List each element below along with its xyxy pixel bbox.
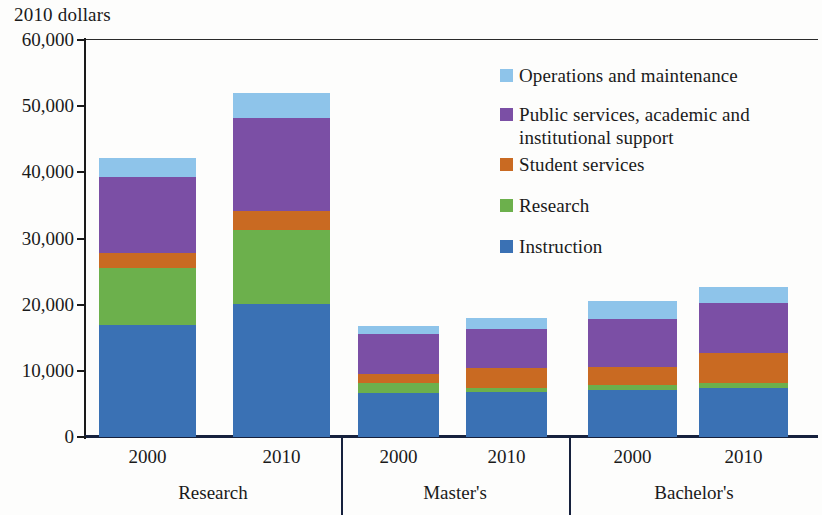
legend-swatch-icon <box>500 199 513 212</box>
x-axis-year-label: 2010 <box>232 446 332 468</box>
y-axis-tick-label: 20,000 <box>0 294 74 316</box>
bar-stack <box>233 93 330 437</box>
x-axis-year-label: 2000 <box>583 446 683 468</box>
y-axis-tick-label: 10,000 <box>0 360 74 382</box>
legend-item-label: Student services <box>519 153 645 176</box>
y-axis-tick <box>77 39 86 41</box>
y-axis-tick <box>77 436 86 438</box>
y-axis-tick-label: 40,000 <box>0 161 74 183</box>
bar-segment <box>99 177 196 253</box>
y-axis-tick <box>77 370 86 372</box>
bar-segment <box>99 325 196 437</box>
bar-segment <box>233 93 330 118</box>
bar-segment <box>233 304 330 437</box>
y-axis-tick-label: 50,000 <box>0 95 74 117</box>
legend-item-instruction[interactable]: Instruction <box>500 235 818 258</box>
bar-segment <box>99 253 196 268</box>
legend-swatch-icon <box>500 158 513 171</box>
bar-segment <box>699 303 788 353</box>
bar-segment <box>588 367 677 385</box>
bar-segment <box>588 301 677 319</box>
x-axis-year-label: 2010 <box>694 446 794 468</box>
bar-segment <box>466 392 547 437</box>
bar-segment <box>699 287 788 303</box>
bar-stack <box>588 301 677 437</box>
bar-stack <box>699 287 788 437</box>
y-axis-tick-label: 60,000 <box>0 29 74 51</box>
bar-segment <box>99 158 196 177</box>
y-axis-tick <box>77 105 86 107</box>
x-axis-group-label: Bachelor's <box>570 482 818 504</box>
bar-segment <box>466 318 547 329</box>
x-axis-group-label: Master's <box>342 482 568 504</box>
bar-segment <box>233 230 330 304</box>
bar-segment <box>466 329 547 368</box>
y-axis-unit-label: 2010 dollars <box>14 4 111 26</box>
bar-segment <box>588 319 677 367</box>
legend-swatch-icon <box>500 108 513 121</box>
legend-swatch-icon <box>500 69 513 82</box>
x-axis-year-label: 2000 <box>349 446 449 468</box>
y-axis-tick <box>77 304 86 306</box>
legend-item-research[interactable]: Research <box>500 194 818 217</box>
y-axis-tick <box>77 238 86 240</box>
legend-item-operations[interactable]: Operations and maintenance <box>500 64 818 87</box>
legend-item-public_support[interactable]: Public services, academic and institutio… <box>500 103 818 149</box>
bar-segment <box>358 393 439 437</box>
bar-segment <box>99 268 196 325</box>
legend-swatch-icon <box>500 240 513 253</box>
bar-segment <box>358 326 439 335</box>
bar-stack <box>358 326 439 437</box>
legend-item-student_services[interactable]: Student services <box>500 153 818 176</box>
legend-item-label: Operations and maintenance <box>519 64 738 87</box>
bar-segment <box>358 334 439 374</box>
x-axis-year-label: 2010 <box>457 446 557 468</box>
x-axis-year-label: 2000 <box>98 446 198 468</box>
bar-segment <box>699 353 788 383</box>
bar-segment <box>588 390 677 437</box>
bar-stack <box>99 158 196 437</box>
y-axis-tick-label: 0 <box>0 426 74 448</box>
bar-stack <box>466 318 547 437</box>
bar-segment <box>233 118 330 211</box>
legend-item-label: Public services, academic and institutio… <box>519 103 818 149</box>
stacked-bar-chart: 2010 dollars 010,00020,00030,00040,00050… <box>0 0 822 515</box>
legend-item-label: Research <box>519 194 589 217</box>
x-axis-group-label: Research <box>86 482 340 504</box>
chart-legend: Operations and maintenancePublic service… <box>500 64 818 258</box>
bar-segment <box>233 211 330 230</box>
bar-segment <box>358 374 439 383</box>
y-axis-tick <box>77 171 86 173</box>
bar-segment <box>699 388 788 437</box>
legend-item-label: Instruction <box>519 235 602 258</box>
y-axis-tick-label: 30,000 <box>0 228 74 250</box>
bar-segment <box>358 383 439 393</box>
bar-segment <box>466 368 547 388</box>
